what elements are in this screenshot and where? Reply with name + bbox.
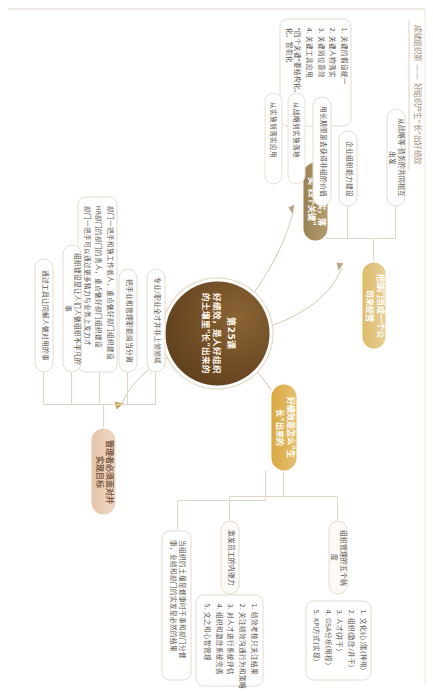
cap-professional-label: 专业/职业全才并非上领领域 <box>151 277 160 363</box>
box-health[interactable]: 当组织的土壤是健康时干事和部门分健康，业绩和部门的实发是必然的结果 <box>161 530 191 680</box>
list-item: 部门一把手可以通过更多精力与业务上发力才 <box>81 205 90 363</box>
cap-strategy-label: 从战略等·债务的共同相互出发 <box>387 116 405 198</box>
branch-pill-manager[interactable]: 管理者必须面对并实现目标 <box>91 428 115 514</box>
center-lesson-number: 第25课 <box>223 317 235 350</box>
branch-pill-company[interactable]: 把部门当成一个公司来经营 <box>362 262 385 348</box>
cap-strategy[interactable]: 从战略等·债务的共同相互出发 <box>386 108 405 206</box>
list-item: HR部门的部门的责人，重点做好部门组织建设 <box>93 205 102 363</box>
cap-professional[interactable]: 专业/职业全才并非上领领域 <box>146 268 165 372</box>
cap-tools-label: 通过工具让同解人做对用的事 <box>39 270 48 361</box>
list-item: 5. 文之和心智管理 <box>201 603 210 677</box>
cap-org-nature-label: 组织建设是让人们人做组织不平凡的事 <box>63 252 81 364</box>
cap-hands-on-label: 把手业和管理职能岗当分离 <box>123 278 132 362</box>
list-item: 2. 组织(激励/并干) <box>345 609 354 671</box>
center-headline: 好绩效，是人好组织的土壤里"长"出来的 <box>198 281 221 385</box>
list-item: 1. 绩效考核只关注结果 <box>248 603 257 677</box>
branch-pill-growth[interactable]: 好绩效是怎么"生长"出来的 <box>271 384 296 470</box>
list-item: 1. 文化(心)策(种用) <box>357 609 366 671</box>
list-item: 3. 人才(并干) <box>334 609 343 671</box>
cap-org-nature[interactable]: 组织建设是让人们人做组织不平凡的事 <box>62 244 81 372</box>
branch-label-growth: 好绩效是怎么"生长"出来的 <box>273 394 294 460</box>
cap-five-dimensions-label: 组织管理的五个纳度 <box>329 528 347 586</box>
group-implementation: 从战略到实施落地 从实施到落实应用 <box>264 92 305 184</box>
list-item: 4. 组织和激励系统完善 <box>213 603 222 677</box>
list-item: 3. 对人才进行系统评估 <box>225 603 234 677</box>
branch-label-company: 把部门当成一个公司来经营 <box>363 272 384 338</box>
cap-vision[interactable]: 用长期愿景去获得非组的价值 <box>312 96 331 206</box>
group-row[interactable]: 从战略到实施落地 <box>287 92 305 184</box>
cap-capability-label: 企业组织能力建设 <box>343 140 352 196</box>
list-manager[interactable]: 部门一把手和施工作者人，重点做好部门组织建设 HR部门的部门的责人，重点做好部门… <box>77 196 117 372</box>
branch-label-manager: 管理者必须面对并实现目标 <box>93 438 114 504</box>
list-motivation[interactable]: 1. 绩效考核只关注结果 2. 关注绩效沟通行为和策略 3. 对人才进行系统评估… <box>195 594 263 686</box>
list-item: 部门一把手和施工作者人，重点做好部门组织建设 <box>104 205 113 363</box>
box-health-label: 当组织的土壤是健康时干事和部门分健康，业绩和部门的实发是必然的结果 <box>167 539 184 671</box>
group-row[interactable]: 从实施到落实应用 <box>264 92 282 184</box>
mindmap-canvas: 成就组织第 —— 好组织产生"长"出好绩效 <box>0 0 433 693</box>
list-item: 4. GSA分析(用程) <box>322 609 331 671</box>
list-item: 2. 关注绩效沟通行为和策略 <box>236 603 245 677</box>
cap-five-dimensions[interactable]: 组织管理的五个纳度 <box>328 520 347 594</box>
list-item: 1. 关键的假设统一 <box>338 27 347 117</box>
list-five-dimensions[interactable]: 1. 文化(心)策(种用) 2. 组织(激励/并干) 3. 人才(并干) 4. … <box>305 600 371 680</box>
cap-vision-label: 用长期愿景去获得非组的价值 <box>317 106 326 197</box>
cap-motivation-label: 激发员工的内驱力 <box>225 529 234 585</box>
center-node[interactable]: 第25课 好绩效，是人好组织的土壤里"长"出来的 <box>165 281 269 385</box>
cap-tools[interactable]: 通过工具让同解人做对用的事 <box>34 258 53 372</box>
list-item: 5. KPI方式(实现) <box>310 609 319 671</box>
cap-capability[interactable]: 企业组织能力建设 <box>338 130 357 206</box>
cap-motivation[interactable]: 激发员工的内驱力 <box>220 520 239 594</box>
cap-hands-on[interactable]: 把手业和管理职能岗当分离 <box>118 268 137 372</box>
